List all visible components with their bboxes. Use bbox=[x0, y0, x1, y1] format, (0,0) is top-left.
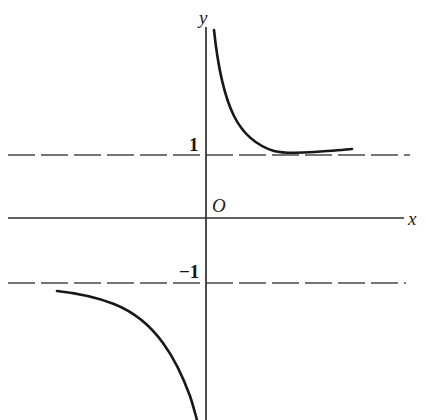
y-tick-label-1: 1 bbox=[189, 135, 199, 154]
y-axis-label: y bbox=[199, 8, 207, 27]
curve-lower-left-branch bbox=[57, 291, 197, 420]
graph-figure: y x O 1 −1 bbox=[0, 0, 426, 420]
x-axis-label: x bbox=[408, 209, 416, 228]
curve-upper-right-branch bbox=[214, 30, 352, 153]
y-tick-label-negative-1: −1 bbox=[179, 262, 199, 281]
origin-label: O bbox=[212, 196, 226, 215]
